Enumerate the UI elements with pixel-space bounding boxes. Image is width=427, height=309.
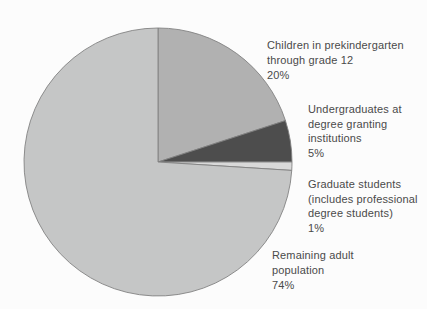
slice-label-children-prek-grade12: Children in prekindergarten through grad… bbox=[267, 38, 404, 82]
slice-value: 1% bbox=[308, 221, 418, 236]
slice-label-line: degree granting bbox=[308, 117, 402, 132]
slice-label-undergraduates: Undergraduates at degree granting instit… bbox=[308, 102, 402, 161]
slice-label-line: Children in prekindergarten bbox=[267, 38, 404, 53]
slice-label-line: through grade 12 bbox=[267, 53, 404, 68]
slice-label-line: (includes professional bbox=[308, 192, 418, 207]
slice-label-line: Undergraduates at bbox=[308, 102, 402, 117]
slice-label-remaining-adult-population: Remaining adult population 74% bbox=[272, 248, 354, 292]
slice-value: 74% bbox=[272, 278, 354, 293]
slice-label-line: Graduate students bbox=[308, 177, 418, 192]
slice-value: 20% bbox=[267, 68, 404, 83]
slice-label-line: institutions bbox=[308, 131, 402, 146]
slice-label-graduate-students: Graduate students (includes professional… bbox=[308, 177, 418, 236]
slice-label-line: Remaining adult bbox=[272, 248, 354, 263]
slice-label-line: degree students) bbox=[308, 206, 418, 221]
slice-value: 5% bbox=[308, 146, 402, 161]
slice-label-line: population bbox=[272, 263, 354, 278]
pie-chart-figure: Children in prekindergarten through grad… bbox=[0, 0, 427, 309]
